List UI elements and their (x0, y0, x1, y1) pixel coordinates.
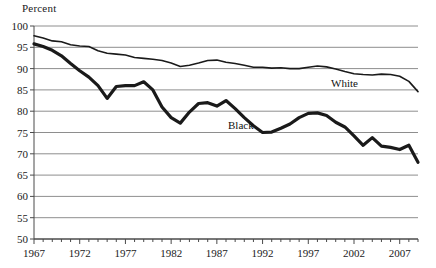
x-tick-label-1982: 1982 (160, 248, 182, 259)
x-tick-label-1987: 1987 (206, 248, 228, 259)
y-tick-label-70: 70 (2, 149, 28, 160)
series-label-white: White (331, 78, 358, 89)
y-tick-label-95: 95 (2, 42, 28, 53)
y-tick-label-85: 85 (2, 85, 28, 96)
x-tick-label-1992: 1992 (252, 248, 274, 259)
x-tick-label-2007: 2007 (389, 248, 411, 259)
x-tick-label-1967: 1967 (23, 248, 45, 259)
series-label-black: Black (228, 120, 254, 131)
y-tick-label-90: 90 (2, 64, 28, 75)
y-tick-label-50: 50 (2, 234, 28, 245)
y-tick-label-65: 65 (2, 170, 28, 181)
x-tick-label-1972: 1972 (69, 248, 91, 259)
x-tick-label-1997: 1997 (297, 248, 319, 259)
chart-plot-area (0, 0, 436, 268)
gridlines (34, 26, 418, 239)
y-axis-ticks (30, 26, 34, 239)
y-tick-label-75: 75 (2, 128, 28, 139)
y-tick-label-55: 55 (2, 213, 28, 224)
chart-figure: Percent 50556065707580859095100 19671972… (0, 0, 436, 268)
x-tick-label-1977: 1977 (114, 248, 136, 259)
x-axis-ticks (34, 239, 418, 244)
y-tick-label-60: 60 (2, 191, 28, 202)
y-tick-label-80: 80 (2, 106, 28, 117)
series-line-white (34, 36, 418, 92)
x-tick-label-2002: 2002 (343, 248, 365, 259)
data-series-group (34, 36, 418, 163)
y-tick-label-100: 100 (2, 21, 28, 32)
